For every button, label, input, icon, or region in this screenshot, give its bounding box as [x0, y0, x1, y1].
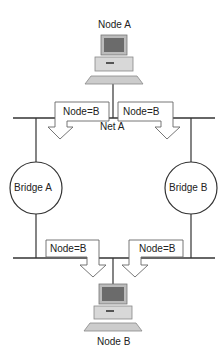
bridge-a-label: Bridge A	[14, 183, 52, 193]
frame-label-top-left: Node=B	[63, 107, 99, 117]
computer-icon-node-a	[85, 35, 143, 84]
frame-label-top-right: Node=B	[123, 107, 159, 117]
diagram-canvas	[0, 0, 223, 359]
computer-icon-node-b	[84, 284, 142, 331]
frame-label-bottom-left: Node=B	[50, 244, 86, 254]
node-b-label: Node B	[97, 337, 130, 347]
node-a-label: Node A	[98, 20, 131, 30]
bridge-b-label: Bridge B	[169, 183, 207, 193]
net-a-label: Net A	[100, 122, 124, 132]
frame-label-bottom-right: Node=B	[139, 244, 175, 254]
